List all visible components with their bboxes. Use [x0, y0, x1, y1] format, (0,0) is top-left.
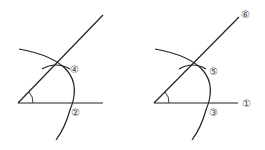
angle-mark [29, 92, 33, 103]
geometry-diagram: ④ ② ⑥ ⑤ ① ③ [0, 0, 265, 150]
right-figure: ⑥ ⑤ ① ③ [154, 9, 251, 140]
label-4: ④ [70, 64, 79, 75]
large-arc [19, 49, 74, 140]
small-arc [179, 65, 206, 69]
angle-mark [165, 92, 169, 103]
label-6: ⑥ [241, 9, 250, 20]
large-arc [155, 49, 210, 140]
ray-line [18, 15, 103, 103]
label-3: ③ [209, 107, 218, 118]
left-figure: ④ ② [18, 15, 103, 140]
label-2: ② [71, 107, 80, 118]
label-1: ① [242, 98, 251, 109]
label-5: ⑤ [209, 66, 218, 77]
ray-line [154, 17, 239, 103]
